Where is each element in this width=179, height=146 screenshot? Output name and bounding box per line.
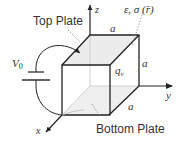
top-plate-label: Top Plate [33, 14, 83, 28]
cube-capacitor-diagram: Top Plate Bottom Plate ε, σ (r̄) V0 qv a… [0, 0, 179, 146]
material-leader [132, 12, 143, 46]
top-plate-leader [68, 30, 80, 42]
x-axis [46, 115, 62, 132]
wire-arc-bottom [36, 85, 62, 115]
charge-subscript: v [121, 70, 125, 78]
axis-label-y: y [165, 89, 171, 101]
top-plate-face [62, 35, 139, 65]
bottom-plate-label: Bottom Plate [96, 122, 165, 136]
edge-label-bottom: a [128, 100, 134, 112]
edge-label-right: a [142, 57, 148, 69]
material-label: ε, σ (r̄) [124, 3, 154, 16]
voltage-subscript: 0 [19, 62, 23, 71]
edge-label-top: a [110, 22, 116, 34]
axis-label-x: x [35, 125, 41, 136]
voltage-label: V0 [12, 57, 23, 71]
axis-label-z: z [94, 4, 99, 15]
charge-label: qv [115, 64, 125, 78]
